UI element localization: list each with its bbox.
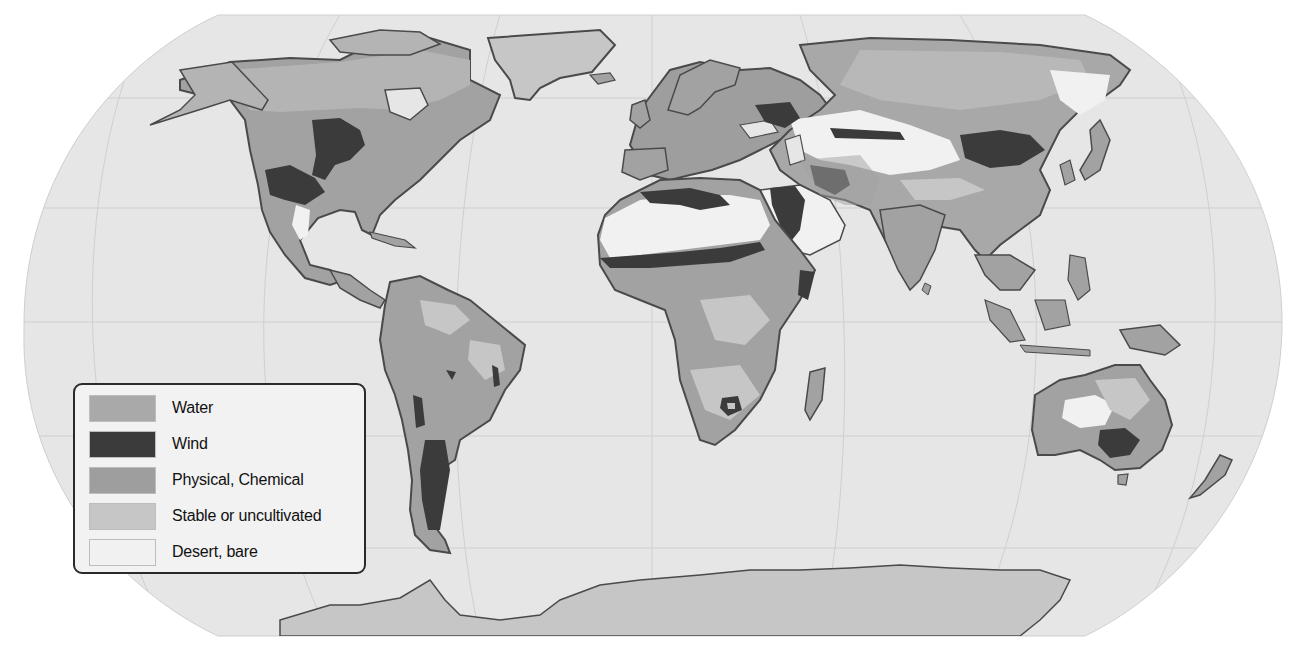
legend-item-wind: Wind	[89, 431, 359, 458]
tasmania	[1118, 474, 1128, 485]
legend-label: Desert, bare	[172, 543, 258, 561]
legend-label: Physical, Chemical	[172, 471, 304, 489]
desert-swatch	[89, 539, 156, 566]
kalahari-center	[727, 403, 735, 409]
wind-swatch	[89, 431, 156, 458]
legend-label: Water	[172, 399, 213, 417]
map-legend: Water Wind Physical, Chemical Stable or …	[73, 383, 366, 574]
water-swatch	[89, 395, 156, 422]
stable-swatch	[89, 503, 156, 530]
legend-item-stable: Stable or uncultivated	[89, 503, 359, 530]
legend-item-desert: Desert, bare	[89, 539, 359, 566]
physical-chemical-swatch	[89, 467, 156, 494]
legend-label: Wind	[172, 435, 208, 453]
legend-item-physical-chemical: Physical, Chemical	[89, 467, 359, 494]
legend-label: Stable or uncultivated	[172, 507, 321, 525]
legend-item-water: Water	[89, 395, 359, 422]
